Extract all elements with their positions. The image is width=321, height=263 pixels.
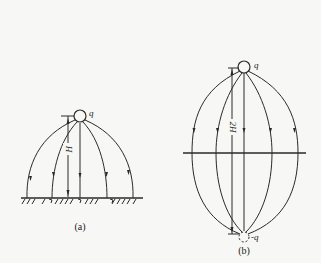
arrow-icon <box>79 173 82 178</box>
charge-circle <box>74 110 86 122</box>
height-label: H <box>64 145 74 153</box>
arrow-icon <box>67 118 70 124</box>
caption-b: (b) <box>238 245 250 257</box>
charge-label: q <box>89 108 94 118</box>
arrow-icon <box>29 176 32 181</box>
height-label: 2H <box>228 122 238 134</box>
caption-a: (a) <box>74 221 85 233</box>
field-line <box>83 122 107 198</box>
image-charge-label: -q <box>251 232 259 242</box>
charge-label: q <box>254 60 259 70</box>
arrow-icon <box>243 128 246 133</box>
field-line <box>85 120 133 198</box>
image-charge-circle <box>239 232 249 242</box>
diagram-canvas: q H (a) q -q <box>0 0 321 263</box>
arrow-icon <box>231 69 234 75</box>
arrow-icon <box>52 172 55 177</box>
arrow-icon <box>269 128 272 133</box>
arrow-icon <box>293 128 296 133</box>
field-line <box>52 122 77 198</box>
arrow-icon <box>67 190 70 196</box>
arrow-icon <box>127 170 130 175</box>
figure-b: q -q 2H (b) <box>183 60 306 257</box>
charge-circle <box>238 61 250 73</box>
figure-a: q H (a) <box>21 108 143 233</box>
arrow-icon <box>216 128 219 133</box>
induced-charge-marks <box>49 199 113 203</box>
